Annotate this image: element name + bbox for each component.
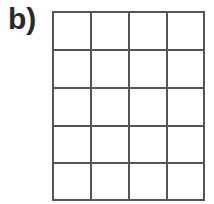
grid-line-vertical [166,11,168,201]
grid-line-horizontal [52,125,205,127]
grid-line-vertical [52,11,54,201]
grid-line-horizontal [52,49,205,51]
part-label: b) [8,4,36,34]
grid-line-vertical [128,11,130,201]
grid-line-vertical [90,11,92,201]
grid-line-vertical [203,11,205,201]
grid-line-horizontal [52,162,205,164]
grid-line-horizontal [52,11,205,13]
grid-line-horizontal [52,199,205,201]
empty-grid-4x5 [52,11,205,201]
grid-line-horizontal [52,87,205,89]
